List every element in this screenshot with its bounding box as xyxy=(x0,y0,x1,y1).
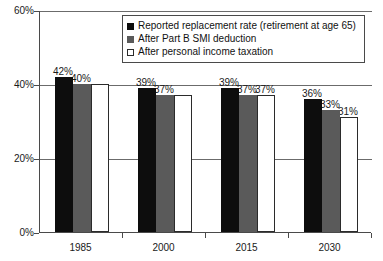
x-axis-tick xyxy=(288,233,289,238)
legend-item-after-personal-income-taxation: After personal income taxation xyxy=(127,46,360,58)
bar-value-label: 33% xyxy=(320,100,340,110)
x-axis-label: 1985 xyxy=(39,242,122,253)
y-axis-label: 60% xyxy=(14,6,34,16)
y-axis-label: 0% xyxy=(20,228,34,238)
x-axis-label: 2015 xyxy=(205,242,288,253)
y-axis-label: 20% xyxy=(14,154,34,164)
bar-chart: 0%20%40%60% 1985200020152030 42%40%39%37… xyxy=(0,0,383,261)
x-axis-tick xyxy=(122,233,123,238)
bar xyxy=(304,99,322,232)
bar xyxy=(239,95,257,232)
x-axis-label: 2030 xyxy=(288,242,371,253)
bar-value-label: 39% xyxy=(219,78,239,88)
y-axis-tick xyxy=(34,233,39,234)
bar-value-label: 39% xyxy=(136,78,156,88)
bar xyxy=(174,95,192,232)
bar xyxy=(91,84,109,232)
bar xyxy=(156,95,174,232)
bar xyxy=(221,88,239,232)
bar-value-label: 37% xyxy=(237,85,257,95)
legend-label-series-2: After personal income taxation xyxy=(138,47,273,57)
bar xyxy=(73,84,91,232)
legend-swatch-icon-series-2 xyxy=(127,49,134,56)
bar xyxy=(340,117,358,232)
bar-value-label: 42% xyxy=(53,67,73,77)
bar xyxy=(55,77,73,232)
bar xyxy=(138,88,156,232)
bar-value-label: 36% xyxy=(302,89,322,99)
legend-swatch-icon-series-1 xyxy=(127,36,134,43)
bar-value-label: 37% xyxy=(154,85,174,95)
y-axis-label: 40% xyxy=(14,80,34,90)
bar xyxy=(322,110,340,232)
gridline xyxy=(40,11,372,12)
x-axis-tick xyxy=(205,233,206,238)
x-axis-label: 2000 xyxy=(122,242,205,253)
legend-item-reported-replacement-rate: Reported replacement rate (retirement at… xyxy=(127,20,360,32)
bar-value-label: 37% xyxy=(255,85,275,95)
bar xyxy=(257,95,275,232)
legend-label-series-0: Reported replacement rate (retirement at… xyxy=(138,21,356,31)
chart-legend: Reported replacement rate (retirement at… xyxy=(122,15,365,63)
legend-swatch-icon-series-0 xyxy=(127,23,134,30)
bar-value-label: 40% xyxy=(71,74,91,84)
bar-value-label: 31% xyxy=(338,107,358,117)
x-axis-tick xyxy=(371,233,372,238)
legend-label-series-1: After Part B SMI deduction xyxy=(138,34,256,44)
legend-item-after-part-b-smi-deduction: After Part B SMI deduction xyxy=(127,33,360,45)
